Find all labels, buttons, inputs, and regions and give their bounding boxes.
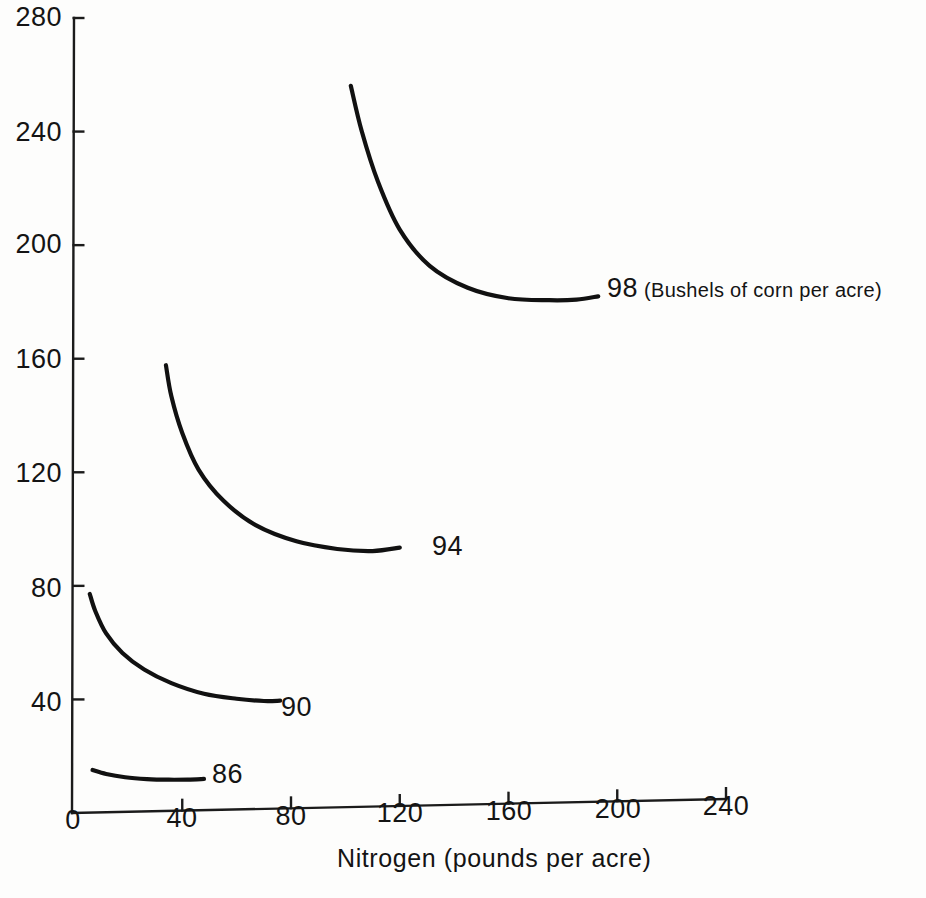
curve-label-94: 94 xyxy=(432,533,463,560)
y-tick-label-280: 280 xyxy=(15,4,62,31)
curve-94 xyxy=(166,365,400,551)
x-tick-label-160: 160 xyxy=(483,798,535,825)
x-tick-label-80: 80 xyxy=(265,803,317,830)
curve-label-98: 98(Bushels of corn per acre) xyxy=(607,275,882,302)
curve-label-units: (Bushels of corn per acre) xyxy=(644,279,882,301)
curve-label-90: 90 xyxy=(281,694,312,721)
y-tick-label-80: 80 xyxy=(31,575,62,602)
axis-lines xyxy=(72,18,726,813)
curve-label-value: 90 xyxy=(281,692,312,722)
y-tick-label-240: 240 xyxy=(15,119,62,146)
y-tick-label-160: 160 xyxy=(15,346,62,373)
x-tick-label-200: 200 xyxy=(592,796,644,823)
curve-paths xyxy=(90,86,598,780)
curve-label-value: 86 xyxy=(212,759,243,789)
curve-label-value: 98 xyxy=(607,273,638,303)
curve-label-value: 94 xyxy=(432,531,463,561)
curve-98 xyxy=(351,86,598,300)
curve-90 xyxy=(90,594,280,701)
plot-area xyxy=(0,0,926,898)
x-axis-title: Nitrogen (pounds per acre) xyxy=(337,846,651,871)
curve-label-86: 86 xyxy=(212,761,243,788)
y-tick-label-120: 120 xyxy=(15,460,62,487)
x-tick-label-240: 240 xyxy=(700,793,752,820)
x-tick-label-40: 40 xyxy=(156,805,208,832)
curve-86 xyxy=(93,770,204,780)
y-tick-label-200: 200 xyxy=(15,231,62,258)
x-tick-label-120: 120 xyxy=(374,800,426,827)
chart-figure: 2802402001601208040 04080120160200240 Ni… xyxy=(0,0,926,898)
y-tick-label-40: 40 xyxy=(31,689,62,716)
x-tick-label-0: 0 xyxy=(47,807,99,834)
